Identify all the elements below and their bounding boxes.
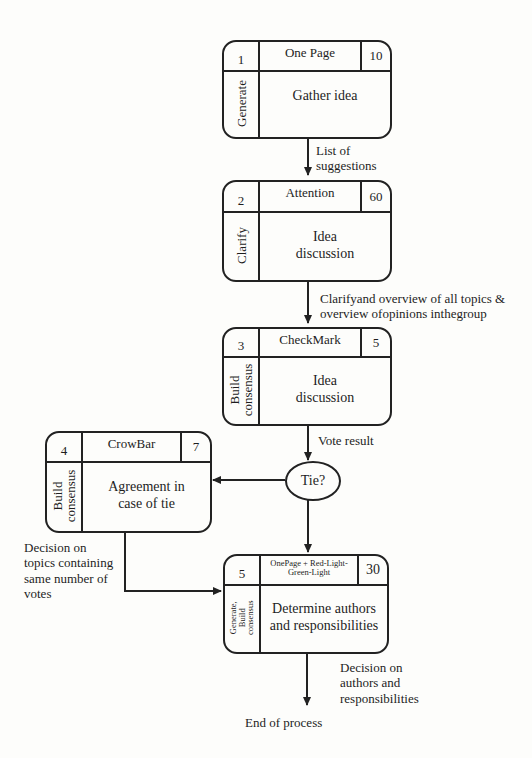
step-2-box: 2 Attention 60 Clarify Idea discussion (222, 180, 392, 282)
step-5-box: 5 OnePage + Red-Light-Green-Light 30 Gen… (223, 554, 389, 654)
step-1-box: 1 One Page 10 Generate Gather idea (222, 40, 392, 139)
step-duration: 30 (359, 556, 387, 584)
step-phase: Generate (235, 80, 248, 127)
step-number: 3 (224, 329, 260, 356)
step-tool: OnePage + Red-Light-Green-Light (261, 556, 359, 584)
step-phase: Generate, Build consensus (229, 601, 255, 635)
tie-decision-label: Tie? (301, 473, 325, 489)
step-activity: Gather idea (260, 70, 390, 137)
step-activity: Idea discussion (260, 356, 390, 424)
step-phase: Build consensus (228, 364, 254, 417)
step-activity: Determine authors and responsibilities (261, 584, 387, 652)
step-tool: Attention (260, 182, 362, 211)
step-duration: 10 (362, 42, 390, 70)
tie-decision: Tie? (285, 461, 341, 501)
step-number: 5 (225, 556, 261, 584)
step-4-box: 4 CrowBar 7 Build consensus Agreement in… (45, 431, 212, 533)
edge-label-list-of-suggestions: List of suggestions (316, 143, 377, 174)
process-flow-diagram: 1 One Page 10 Generate Gather idea 2 Att… (0, 0, 532, 758)
step-3-box: 3 CheckMark 5 Build consensus Idea discu… (222, 327, 392, 426)
step-activity: Idea discussion (260, 211, 390, 280)
edge-label-clarify-overview: Clarifyand overview of all topics & over… (320, 291, 505, 322)
step-phase: Clarify (235, 227, 248, 264)
step-tool: CheckMark (260, 329, 362, 356)
edge-label-tie-decision: Decision on topics containing same numbe… (24, 540, 113, 601)
arrow-step4-to-step5 (125, 532, 221, 591)
step-phase: Build consensus (51, 470, 77, 523)
step-duration: 7 (182, 433, 210, 461)
step-number: 2 (224, 182, 260, 211)
step-tool: One Page (260, 42, 362, 70)
step-number: 4 (47, 433, 83, 461)
step-activity: Agreement in case of tie (83, 461, 210, 531)
edge-label-vote-result: Vote result (318, 433, 374, 448)
step-duration: 5 (362, 329, 390, 356)
end-of-process-label: End of process (245, 715, 322, 730)
edge-label-authors-decision: Decision on authors and responsibilities (340, 660, 419, 706)
step-number: 1 (224, 42, 260, 70)
step-duration: 60 (362, 182, 390, 211)
step-tool: CrowBar (83, 433, 182, 461)
